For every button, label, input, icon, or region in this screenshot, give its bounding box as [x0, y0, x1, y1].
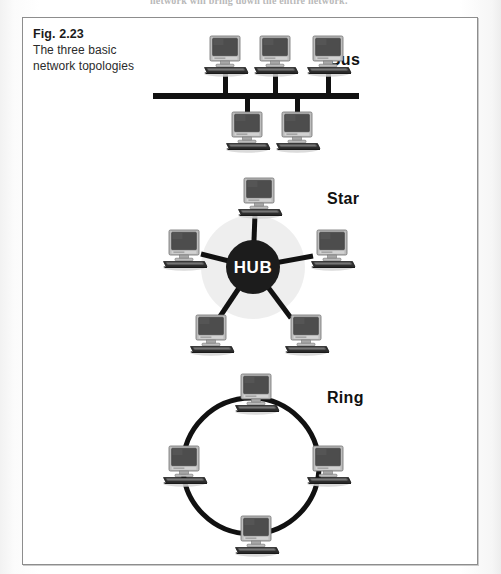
bus-workstation-bottom-2[interactable]: [276, 112, 320, 153]
ring-cable-circle: [183, 398, 319, 534]
ring-topology-group: [163, 374, 351, 557]
star-topology-title: Star: [327, 190, 359, 208]
star-hub-label: HUB: [234, 258, 272, 277]
figure-caption: Fig. 2.23 The three basic network topolo…: [33, 26, 183, 74]
topology-diagrams-canvas: HUB: [23, 18, 479, 566]
cut-off-running-text: network will bring down the entire netwo…: [150, 0, 390, 7]
star-workstation-right-upper[interactable]: [311, 230, 355, 271]
star-workstation-top[interactable]: [238, 178, 282, 219]
ring-topology-title: Ring: [327, 389, 364, 407]
ring-workstation-top[interactable]: [235, 374, 279, 415]
figure-description-line-2: network topologies: [33, 58, 183, 74]
figure-description-line-1: The three basic: [33, 42, 183, 58]
star-workstation-right-lower[interactable]: [285, 315, 329, 356]
bus-workstation-bottom-1[interactable]: [226, 112, 270, 153]
ring-workstation-left[interactable]: [163, 446, 207, 487]
bus-workstation-top-1[interactable]: [204, 36, 248, 77]
star-workstation-left-lower[interactable]: [190, 315, 234, 356]
figure-number: Fig. 2.23: [33, 26, 183, 42]
figure-frame: Fig. 2.23 The three basic network topolo…: [22, 17, 478, 565]
bus-topology-group: [153, 36, 359, 153]
ring-workstation-right[interactable]: [307, 446, 351, 487]
bus-backbone-cable: [153, 93, 359, 99]
ring-workstation-bottom[interactable]: [235, 516, 279, 557]
star-workstation-left-upper[interactable]: [163, 230, 207, 271]
bus-workstation-top-2[interactable]: [254, 36, 298, 77]
